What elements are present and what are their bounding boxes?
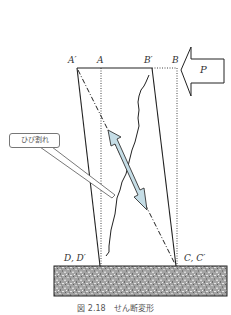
label-a-prime: A′ [68,56,77,65]
callout-leader [40,147,115,198]
label-b: B [172,56,179,65]
label-b-prime: B′ [144,56,153,65]
compression-arrow-icon [108,130,147,210]
label-d-d-prime: D, D′ [64,254,86,263]
crack-callout: ひび割れ [9,133,60,148]
force-label: P [200,64,207,75]
label-c-c-prime: C, C′ [184,254,205,263]
ground-base [54,266,227,296]
figure-caption: 図 2.18 せん断変形 [0,302,231,313]
label-a: A [97,56,104,65]
